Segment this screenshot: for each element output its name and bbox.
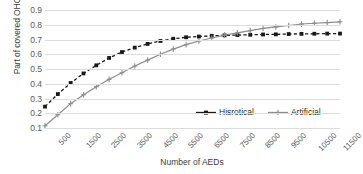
data-point-marker <box>43 105 47 109</box>
x-tick-label: 11500 <box>342 131 363 153</box>
x-tick-label: 4500 <box>161 131 180 150</box>
x-tick-label: 8500 <box>263 131 282 150</box>
data-point-marker <box>184 42 189 48</box>
data-point-marker <box>120 70 125 76</box>
gridline <box>45 84 340 85</box>
data-point-marker <box>338 32 342 36</box>
data-point-marker <box>197 35 201 39</box>
data-point-marker <box>81 92 86 98</box>
gridline <box>45 10 340 11</box>
gridline <box>45 54 340 55</box>
data-point-marker <box>287 32 291 36</box>
data-point-marker <box>133 46 137 50</box>
gridline <box>45 25 340 26</box>
gridline <box>45 113 340 114</box>
data-point-marker <box>338 19 343 25</box>
y-tick-label: 0.8 <box>18 20 42 30</box>
x-tick-label: 6500 <box>212 131 231 150</box>
y-tick-label: 0.7 <box>18 35 42 45</box>
y-axis-ticks: 0.10.20.30.40.50.60.70.80.9 <box>16 0 42 174</box>
series-line-hisrotical <box>45 34 340 107</box>
data-point-marker <box>94 63 98 67</box>
y-tick-label: 0.6 <box>18 49 42 59</box>
x-tick-label: 10500 <box>316 131 338 153</box>
x-axis-title: Number of AEDs <box>40 157 344 167</box>
data-point-marker <box>107 56 111 60</box>
data-point-marker <box>274 32 278 36</box>
data-point-marker <box>325 32 329 36</box>
x-tick-label: 7500 <box>238 131 257 150</box>
x-tick-label: 9500 <box>289 131 308 150</box>
x-tick-label: 5500 <box>186 131 205 150</box>
data-point-marker <box>146 42 150 46</box>
x-tick-label: 1500 <box>84 131 103 150</box>
x-tick-label: 500 <box>57 131 73 147</box>
x-tick-label: 3500 <box>135 131 154 150</box>
y-tick-label: 0.1 <box>18 123 42 133</box>
data-point-marker <box>300 32 304 36</box>
gridline <box>45 69 340 70</box>
y-tick-label: 0.5 <box>18 64 42 74</box>
gridline <box>45 128 340 129</box>
data-point-marker <box>82 72 86 76</box>
gridline <box>45 99 340 100</box>
y-tick-label: 0.2 <box>18 108 42 118</box>
gridline <box>45 40 340 41</box>
y-tick-label: 0.9 <box>18 5 42 15</box>
data-point-marker <box>248 28 253 34</box>
data-point-marker <box>171 46 176 52</box>
data-point-marker <box>132 63 137 69</box>
data-point-marker <box>107 77 112 83</box>
data-point-marker <box>145 57 150 63</box>
x-tick-label: 2500 <box>110 131 129 150</box>
y-tick-label: 0.4 <box>18 79 42 89</box>
y-tick-label: 0.3 <box>18 94 42 104</box>
data-point-marker <box>312 32 316 36</box>
data-point-marker <box>56 92 60 96</box>
data-point-marker <box>261 33 265 37</box>
data-point-marker <box>261 26 266 32</box>
